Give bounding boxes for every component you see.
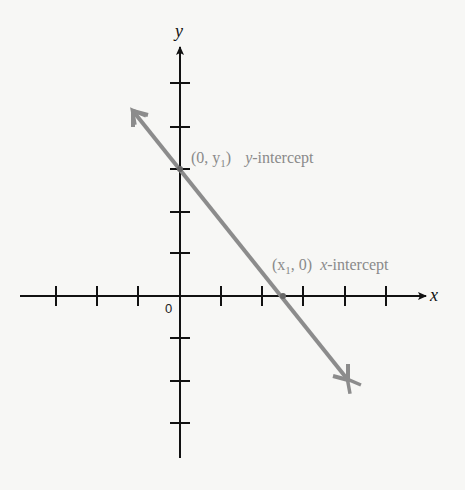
x-intercept-point <box>280 293 286 299</box>
origin-label: 0 <box>165 301 172 316</box>
diagram-svg: y x 0 (0, y1)y-intercept (x1, 0)x-interc… <box>0 0 465 490</box>
x-intercept-annotation: (x1, 0)x-intercept <box>272 256 389 276</box>
sloped-line <box>133 111 348 380</box>
x-axis <box>20 286 426 306</box>
y-intercept-annotation: (0, y1)y-intercept <box>191 149 314 169</box>
y-axis-label: y <box>173 21 183 41</box>
y-axis <box>170 47 190 458</box>
y-intercept-point <box>177 166 183 172</box>
coordinate-diagram: y x 0 (0, y1)y-intercept (x1, 0)x-interc… <box>0 0 465 490</box>
x-axis-label: x <box>429 285 438 305</box>
